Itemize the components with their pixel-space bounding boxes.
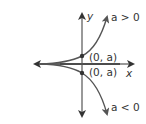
upper-intercept-point [80,54,84,58]
upper-curve-condition-label: a > 0 [111,11,140,23]
lower-intercept-point [80,71,84,75]
y-axis-label: y [86,10,94,22]
lower-intercept-label: (0, a) [89,66,117,78]
diagram-canvas: y x a > 0 a < 0 (0, a) (0, a) [0,0,146,124]
lower-curve-condition-label: a < 0 [111,101,140,113]
upper-intercept-label: (0, a) [89,51,117,63]
x-axis-label: x [125,67,133,79]
